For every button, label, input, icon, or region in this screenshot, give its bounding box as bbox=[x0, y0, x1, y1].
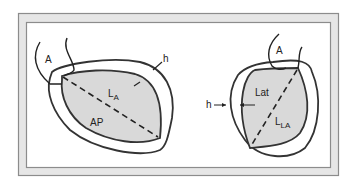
left-atrium-diagram: A h LA AP A h Lat LLA bbox=[0, 0, 355, 182]
lat-aorta-label: A bbox=[276, 45, 283, 56]
ap-view-label: AP bbox=[90, 117, 104, 128]
lat-h-label: h bbox=[206, 99, 212, 110]
ap-aorta-label: A bbox=[45, 54, 52, 65]
ap-h-label: h bbox=[163, 53, 169, 64]
lat-view-label: Lat bbox=[255, 87, 269, 98]
